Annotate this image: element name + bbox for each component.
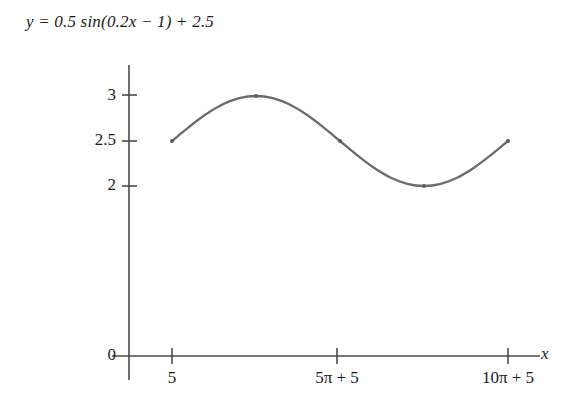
- curve-point-midline: [338, 139, 342, 143]
- curve-point-maximum: [254, 94, 258, 98]
- y-tick-label-0: 0: [74, 345, 116, 365]
- curve-point-end: [506, 139, 510, 143]
- curve-point-minimum: [422, 184, 426, 188]
- x-axis-label: x: [541, 344, 549, 364]
- chart-figure: y = 0.5 sin(0.2x − 1) + 2.5 3 2.5 2 0 5 …: [0, 0, 567, 417]
- x-tick-label-5pi-plus-5: 5π + 5: [292, 368, 382, 388]
- x-tick-label-10pi-plus-5: 10π + 5: [458, 368, 558, 388]
- y-tick-label-3: 3: [74, 85, 116, 105]
- x-tick-label-5: 5: [147, 368, 197, 388]
- y-tick-label-2point5: 2.5: [60, 130, 116, 150]
- y-tick-label-2: 2: [74, 175, 116, 195]
- curve-point-start: [170, 139, 174, 143]
